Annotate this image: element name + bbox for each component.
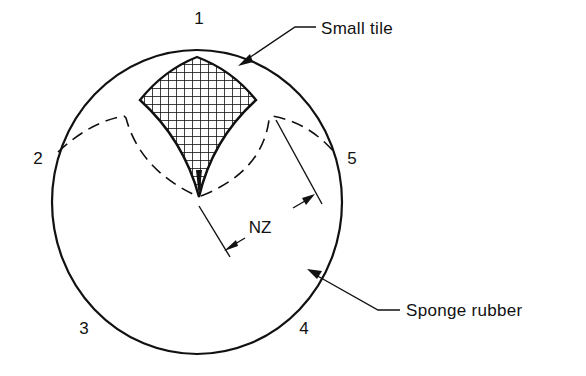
small-tile-leader — [238, 27, 316, 66]
position-label-1: 1 — [194, 9, 203, 28]
small-tile-label: Small tile — [321, 19, 393, 38]
small-tile — [135, 52, 260, 202]
nz-label: NZ — [249, 218, 272, 237]
position-label-2: 2 — [33, 149, 42, 168]
sponge-rubber-tile-diagram: 1 2 3 4 5 NZ Small tile Sponge rubber — [0, 0, 586, 376]
sponge-rubber-leader — [307, 269, 400, 310]
sponge-rubber-label: Sponge rubber — [406, 301, 522, 320]
position-label-4: 4 — [299, 319, 308, 338]
position-label-3: 3 — [79, 319, 88, 338]
position-label-5: 5 — [347, 149, 356, 168]
